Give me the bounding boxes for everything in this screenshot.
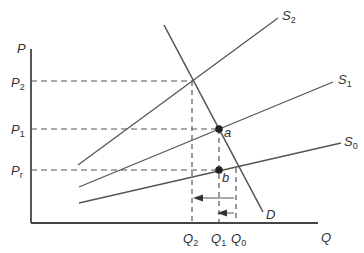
supply-demand-diagram: P Q P2 P1 Pr Q2 Q1 Q0 S2 S1 S0 D a b: [0, 0, 364, 253]
point-b-label: b: [222, 170, 229, 185]
price-label-p1: P1: [11, 122, 25, 139]
price-label-pr: Pr: [11, 163, 23, 180]
point-a-label: a: [224, 125, 231, 140]
point-a: [215, 125, 223, 133]
supply-curve-s0: [79, 143, 341, 203]
x-axis-label: Q: [321, 230, 331, 245]
quantity-label-q2: Q2: [183, 231, 198, 248]
supply-curve-s2: [78, 18, 278, 165]
price-label-p2: P2: [11, 75, 25, 92]
quantity-label-q0: Q0: [231, 231, 246, 248]
supply-label-s2: S2: [282, 8, 296, 25]
arrowhead-icon: [193, 195, 203, 202]
y-axis-label: P: [17, 41, 26, 56]
demand-curve: [164, 25, 263, 212]
supply-curve-s1: [79, 82, 333, 187]
quantity-label-q1: Q1: [211, 231, 226, 248]
demand-label: D: [266, 207, 275, 222]
supply-label-s1: S1: [338, 72, 352, 89]
supply-label-s0: S0: [344, 134, 358, 151]
